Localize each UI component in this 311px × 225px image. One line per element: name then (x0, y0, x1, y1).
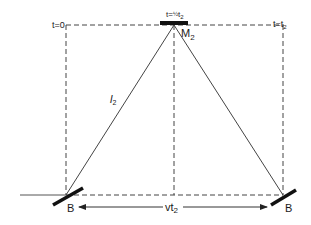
light-clock-diagram: t=0 t=½t2 t=t2 M2 l2 B B vt2 (0, 0, 311, 225)
label-t-half: t=½t2 (166, 10, 184, 20)
mirror-m2 (160, 21, 188, 25)
label-splitter-left: B (67, 202, 74, 214)
label-splitter-right: B (285, 202, 292, 214)
label-distance: vt2 (165, 201, 179, 215)
label-t0: t=0 (52, 20, 65, 30)
dashed-guides (66, 25, 284, 195)
label-path-length: l2 (110, 93, 116, 106)
light-path-up (66, 25, 174, 195)
label-t-end: t=t2 (273, 19, 287, 30)
light-path-down (174, 25, 283, 195)
